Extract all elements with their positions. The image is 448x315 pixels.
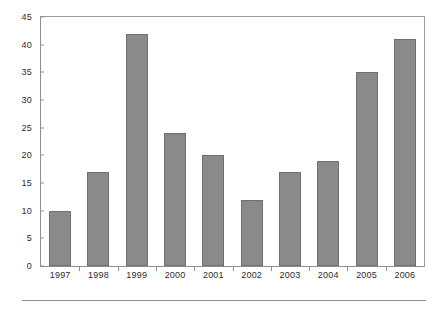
bar-slot	[309, 17, 347, 266]
bar-slot	[271, 17, 309, 266]
bar-2000[interactable]	[164, 133, 186, 266]
footer-divider	[22, 300, 426, 301]
y-axis-tick-label: 45	[22, 12, 32, 22]
bar-slot	[41, 17, 79, 266]
x-axis-tick-label: 2000	[156, 270, 194, 280]
x-axis-tick-mark	[347, 267, 348, 271]
bar-slot	[79, 17, 117, 266]
y-axis-tick-mark	[40, 17, 44, 18]
bar-slot	[156, 17, 194, 266]
y-axis-tick-mark	[40, 127, 44, 128]
x-axis-tick-mark	[233, 267, 234, 271]
bar-slot	[233, 17, 271, 266]
x-axis-tick-mark	[309, 267, 310, 271]
bar-1997[interactable]	[49, 211, 71, 266]
bars-layer	[41, 17, 424, 266]
x-axis-tick-mark	[79, 267, 80, 271]
y-axis-tick-label: 35	[22, 67, 32, 77]
bar-1999[interactable]	[126, 34, 148, 266]
x-axis-tick-label: 1997	[41, 270, 79, 280]
bar-slot	[194, 17, 232, 266]
y-axis-tick-mark	[40, 155, 44, 156]
x-axis-tick-label: 2006	[386, 270, 424, 280]
bar-chart-figure: 051015202530354045 199719981999200020012…	[0, 0, 448, 315]
x-axis-tick-label: 2004	[309, 270, 347, 280]
bar-2002[interactable]	[241, 200, 263, 266]
bar-slot	[347, 17, 385, 266]
x-axis-tick-mark	[156, 267, 157, 271]
x-axis-tick-mark	[271, 267, 272, 271]
y-axis-tick-mark	[40, 183, 44, 184]
y-axis-tick-mark	[40, 100, 44, 101]
x-axis-tick-label: 2001	[194, 270, 232, 280]
y-axis-tick-label: 15	[22, 178, 32, 188]
x-axis-tick-mark	[118, 267, 119, 271]
x-axis-tick-label: 2002	[233, 270, 271, 280]
x-axis-tick-mark	[194, 267, 195, 271]
x-axis-tick-label: 2005	[347, 270, 385, 280]
y-axis-tick-mark	[40, 72, 44, 73]
y-axis-tick-label: 30	[22, 95, 32, 105]
bar-1998[interactable]	[87, 172, 109, 266]
y-axis-tick-mark	[40, 266, 44, 267]
bar-slot	[118, 17, 156, 266]
x-axis-tick-label: 2003	[271, 270, 309, 280]
bar-2006[interactable]	[394, 39, 416, 266]
y-axis-tick-mark	[40, 44, 44, 45]
x-axis-tick-mark	[386, 267, 387, 271]
y-axis-tick-label: 5	[27, 233, 32, 243]
y-axis-tick-label: 10	[22, 206, 32, 216]
y-axis: 051015202530354045	[0, 0, 40, 315]
x-axis-tick-label: 1999	[118, 270, 156, 280]
bar-slot	[386, 17, 424, 266]
y-axis-tick-mark	[40, 238, 44, 239]
x-axis: 1997199819992000200120022003200420052006	[41, 270, 424, 290]
y-axis-tick-label: 20	[22, 150, 32, 160]
bar-2005[interactable]	[356, 72, 378, 266]
x-axis-tick-label: 1998	[79, 270, 117, 280]
bar-2004[interactable]	[317, 161, 339, 266]
bar-2003[interactable]	[279, 172, 301, 266]
y-axis-tick-mark	[40, 210, 44, 211]
bar-2001[interactable]	[202, 155, 224, 266]
y-axis-tick-label: 40	[22, 40, 32, 50]
y-axis-tick-label: 0	[27, 261, 32, 271]
y-axis-tick-label: 25	[22, 123, 32, 133]
